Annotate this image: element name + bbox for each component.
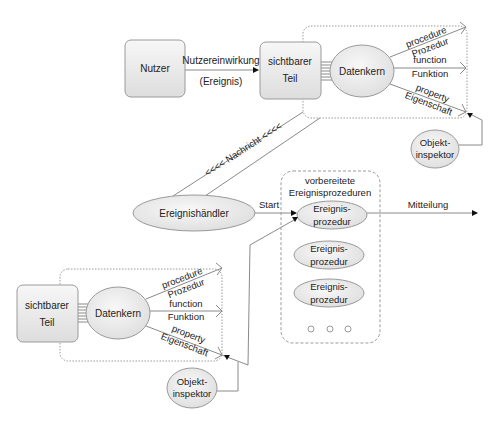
message-label: <<<< Nachricht <<<< — [202, 120, 284, 178]
visible-part-label-2: Teil — [282, 73, 297, 84]
visible-part-box-bottom[interactable]: sichtbarer Teil — [17, 285, 78, 342]
member-property: property Eigenschaft — [404, 79, 459, 117]
arrow-down-icon — [292, 217, 298, 222]
user-action-sub: (Ereignis) — [200, 76, 243, 87]
user-action-label: Nutzereinwirkung — [182, 55, 259, 66]
member-function-de: Funktion — [168, 311, 204, 322]
component-event-diagram: Nutzer Nutzereinwirkung (Ereignis) sicht… — [0, 0, 496, 422]
event-handler[interactable]: Ereignishändler — [133, 195, 255, 231]
start-label: Start — [259, 199, 279, 210]
user-box[interactable]: Nutzer — [125, 40, 185, 97]
bottom-to-procedure-link — [248, 220, 294, 365]
object-inspector-bottom[interactable]: Objekt- inspektor — [167, 368, 217, 408]
svg-text:inspektor: inspektor — [416, 149, 455, 160]
inspector-link-bottom — [217, 362, 238, 391]
member-function-de: Funktion — [412, 68, 448, 79]
svg-text:Objekt-: Objekt- — [177, 376, 208, 387]
svg-text:prozedur: prozedur — [310, 294, 348, 305]
inspector-link-top — [459, 113, 482, 145]
event-procedure-1[interactable]: Ereignis- prozedur — [297, 201, 367, 229]
data-core-bottom[interactable]: Datenkern — [86, 287, 150, 339]
member-procedure: procedure Prozedur — [160, 265, 208, 301]
top-module: Nutzer Nutzereinwirkung (Ereignis) sicht… — [125, 22, 482, 168]
visible-part-label-1: sichtbarer — [268, 56, 313, 67]
svg-text:Ereignis-: Ereignis- — [313, 203, 351, 214]
svg-text:sichtbarer: sichtbarer — [25, 300, 70, 311]
message-channel: <<<< Nachricht <<<< — [173, 112, 320, 196]
user-box-label: Nutzer — [140, 63, 170, 74]
event-handler-label: Ereignishändler — [159, 208, 229, 219]
svg-text:prozedur: prozedur — [310, 256, 348, 267]
member-property: property Eigenschaft — [160, 320, 215, 358]
prepared-procedures: vorbereitete Ereignisprozeduren Ereignis… — [281, 171, 380, 343]
data-core-top[interactable]: Datenkern — [330, 45, 394, 97]
member-function-en: function — [413, 54, 446, 65]
bottom-module: sichtbarer Teil Datenkern procedure Proz… — [17, 263, 248, 408]
event-procedure-3[interactable]: Ereignis- prozedur — [294, 279, 364, 307]
more-indicator — [308, 326, 351, 332]
svg-text:Objekt-: Objekt- — [420, 137, 451, 148]
output-label: Mitteilung — [408, 199, 449, 210]
visible-part-box-top[interactable]: sichtbarer Teil — [260, 42, 321, 99]
svg-text:Ereignis-: Ereignis- — [310, 281, 348, 292]
svg-text:Datenkern: Datenkern — [95, 308, 141, 319]
svg-text:inspektor: inspektor — [173, 388, 212, 399]
event-procedure-2[interactable]: Ereignis- prozedur — [294, 241, 364, 269]
procedures-title-1: vorbereitete — [305, 175, 355, 186]
svg-text:Ereignis-: Ereignis- — [310, 243, 348, 254]
svg-text:prozedur: prozedur — [313, 216, 351, 227]
svg-text:Teil: Teil — [39, 317, 54, 328]
object-inspector-top[interactable]: Objekt- inspektor — [411, 130, 459, 168]
procedures-title-2: Ereignisprozeduren — [289, 187, 371, 198]
data-core-label: Datenkern — [339, 66, 385, 77]
member-function-en: function — [169, 298, 202, 309]
